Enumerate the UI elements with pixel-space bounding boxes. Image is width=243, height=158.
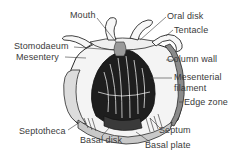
- label-filament: filament: [174, 84, 206, 93]
- label-basal-plate: Basal plate: [145, 141, 191, 150]
- coral-polyp-diagram: Mouth Oral disk Tentacle Stomodaeum Mese…: [0, 0, 243, 158]
- label-mesentery: Mesentery: [16, 53, 59, 62]
- label-edge-zone: Edge zone: [184, 98, 228, 107]
- label-mesenterial: Mesenterial: [174, 73, 222, 82]
- label-stomodaeum: Stomodaeum: [14, 42, 69, 51]
- label-oral-disk: Oral disk: [167, 12, 203, 21]
- label-column-wall: Column wall: [167, 55, 217, 64]
- label-tentacle: Tentacle: [174, 26, 208, 35]
- label-mouth: Mouth: [70, 11, 96, 20]
- tentacle-top-right: [130, 20, 153, 40]
- label-septum: Septum: [159, 126, 191, 135]
- label-septotheca: Septotheca: [19, 127, 66, 136]
- stomodaeum: [114, 42, 126, 56]
- label-basal-disk: Basal disk: [80, 136, 122, 145]
- tentacle-top-left: [105, 18, 116, 40]
